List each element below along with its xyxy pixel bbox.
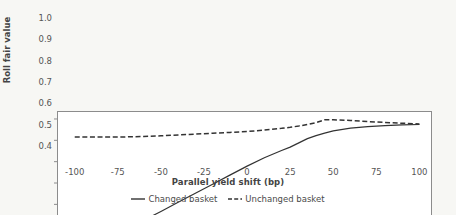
x-tick-label: 100 (399, 167, 439, 177)
x-tick-label: -75 (98, 167, 138, 177)
y-tick-label: 0.5 (26, 120, 52, 130)
legend-label: Changed basket (148, 194, 217, 204)
x-axis-label: Parallel yield shift (bp) (0, 177, 456, 187)
y-axis-label-text: Roll fair value (2, 17, 12, 84)
x-tick-label: -25 (184, 167, 224, 177)
x-tick-label: 25 (270, 167, 310, 177)
dashed-line-swatch-icon (228, 195, 242, 203)
chart-figure: Roll fair value Parallel yield shift (bp… (0, 0, 456, 215)
y-tick-label: 0.4 (26, 141, 52, 151)
legend-item-changed-basket[interactable]: Changed basket (131, 194, 217, 204)
x-tick-label: 50 (313, 167, 353, 177)
y-tick-label: 0.8 (26, 56, 52, 66)
chart-legend: Changed basketUnchanged basket (0, 194, 456, 204)
x-tick-label: 75 (356, 167, 396, 177)
solid-line-swatch-icon (131, 195, 145, 203)
y-tick-label: 0.6 (26, 98, 52, 108)
legend-label: Unchanged basket (245, 194, 324, 204)
legend-item-unchanged-basket[interactable]: Unchanged basket (228, 194, 324, 204)
y-tick-label: 0.9 (26, 34, 52, 44)
y-axis-label: Roll fair value (0, 0, 14, 100)
y-tick-label: 0.7 (26, 77, 52, 87)
y-tick-label: 1.0 (26, 13, 52, 23)
x-tick-label: 0 (227, 167, 267, 177)
x-tick-label: -100 (55, 167, 95, 177)
x-tick-label: -50 (141, 167, 181, 177)
